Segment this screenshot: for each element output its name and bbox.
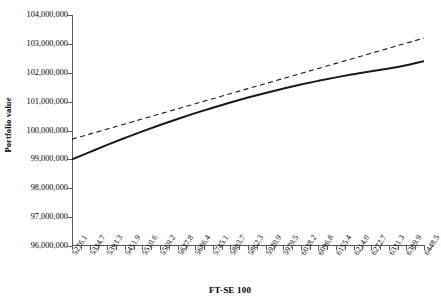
x-tick-mark <box>72 246 73 250</box>
plot-area <box>72 15 424 246</box>
x-tick-mark <box>362 246 363 250</box>
x-tick-mark <box>283 246 284 250</box>
x-tick-mark <box>327 246 328 250</box>
y-tick-label: 103,000,000 <box>16 39 68 48</box>
x-tick-mark <box>151 246 152 250</box>
x-tick-mark <box>186 246 187 250</box>
x-tick-mark <box>354 246 355 250</box>
x-axis-title-label: FT-SE 100 <box>181 285 251 295</box>
y-tick-label: 98,000,000 <box>16 183 68 192</box>
x-tick-mark <box>81 246 82 250</box>
y-tick-label: 97,000,000 <box>16 212 68 221</box>
y-tick-mark <box>67 102 72 103</box>
y-axis-title: Portfolio value <box>0 0 16 250</box>
x-tick-mark <box>248 246 249 250</box>
y-tick-mark <box>67 73 72 74</box>
y-axis-tick-labels: 104,000,000103,000,000102,000,000101,000… <box>16 0 68 250</box>
x-tick-mark <box>389 246 390 250</box>
y-tick-mark <box>67 131 72 132</box>
x-tick-mark <box>301 246 302 250</box>
x-tick-mark <box>239 246 240 250</box>
x-tick-mark <box>230 246 231 250</box>
x-tick-mark <box>415 246 416 250</box>
x-tick-mark <box>345 246 346 250</box>
x-tick-mark <box>266 246 267 250</box>
x-tick-mark <box>178 246 179 250</box>
x-tick-mark <box>107 246 108 250</box>
x-tick-mark <box>160 246 161 250</box>
series-line-dashed <box>72 38 424 139</box>
x-tick-mark <box>169 246 170 250</box>
x-tick-mark <box>318 246 319 250</box>
x-tick-mark <box>406 246 407 250</box>
x-tick-mark <box>371 246 372 250</box>
x-tick-mark <box>257 246 258 250</box>
y-tick-mark <box>67 44 72 45</box>
x-tick-mark <box>222 246 223 250</box>
x-tick-mark <box>142 246 143 250</box>
x-tick-mark <box>336 246 337 250</box>
y-tick-mark <box>67 159 72 160</box>
x-tick-mark <box>98 246 99 250</box>
series-line-solid <box>72 61 424 159</box>
y-tick-label: 96,000,000 <box>16 241 68 250</box>
x-tick-mark <box>204 246 205 250</box>
y-tick-mark <box>67 217 72 218</box>
y-tick-label: 102,000,000 <box>16 68 68 77</box>
x-tick-mark <box>125 246 126 250</box>
y-tick-mark <box>67 15 72 16</box>
x-tick-mark <box>292 246 293 250</box>
x-tick-mark <box>310 246 311 250</box>
x-tick-mark <box>134 246 135 250</box>
x-tick-mark <box>213 246 214 250</box>
y-tick-label: 101,000,000 <box>16 97 68 106</box>
x-tick-mark <box>424 246 425 250</box>
y-axis-title-label: Portfolio value <box>3 97 13 152</box>
x-tick-mark <box>274 246 275 250</box>
y-tick-mark <box>67 188 72 189</box>
plot-svg <box>72 15 424 246</box>
x-axis-title: FT-SE 100 <box>0 285 432 295</box>
x-tick-mark <box>398 246 399 250</box>
y-tick-label: 99,000,000 <box>16 154 68 163</box>
x-tick-mark <box>195 246 196 250</box>
x-tick-mark <box>90 246 91 250</box>
y-tick-label: 104,000,000 <box>16 10 68 19</box>
x-tick-mark <box>380 246 381 250</box>
y-tick-label: 100,000,000 <box>16 126 68 135</box>
x-tick-mark <box>116 246 117 250</box>
